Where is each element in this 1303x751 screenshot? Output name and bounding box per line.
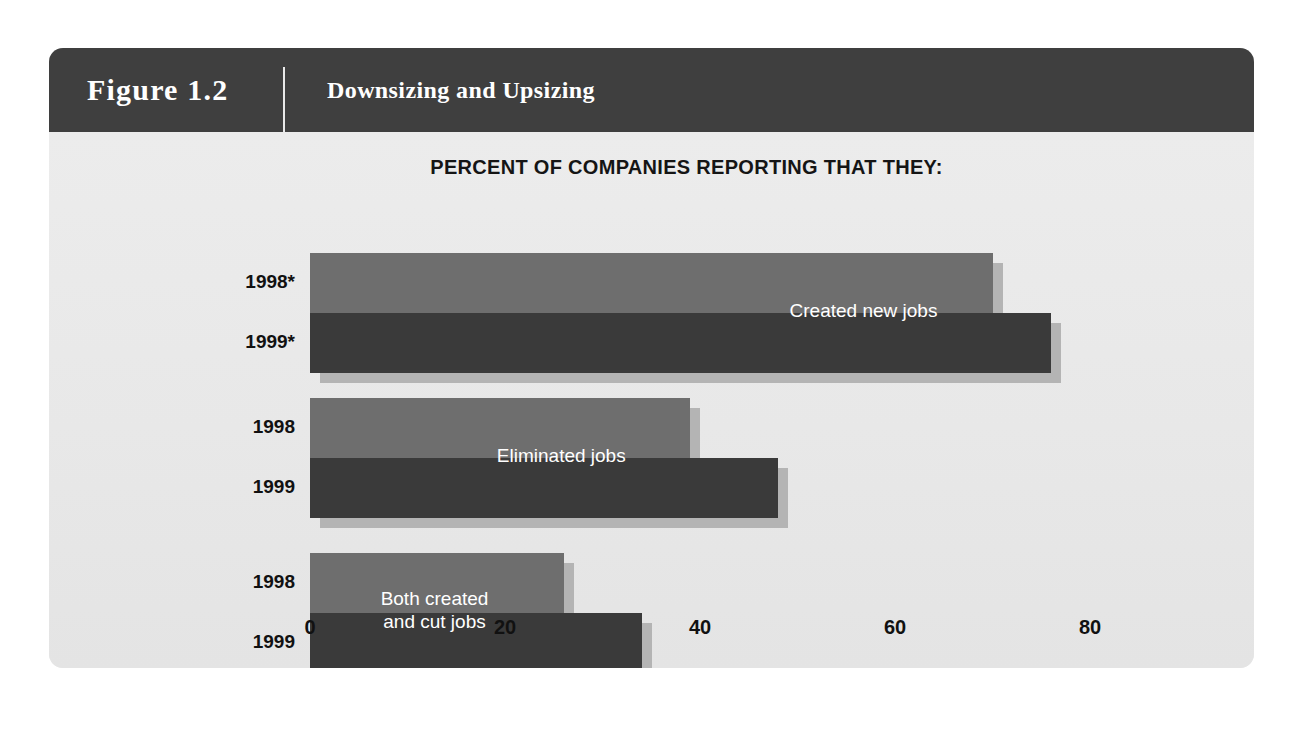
figure-panel: Figure 1.2 Downsizing and Upsizing PERCE… <box>49 48 1254 668</box>
bar-group-label: Created new jobs <box>749 299 979 322</box>
category-label: 1998 <box>140 416 295 438</box>
category-label: 1999 <box>140 631 295 653</box>
x-tick-label: 20 <box>494 616 516 639</box>
category-label: 1999 <box>140 476 295 498</box>
x-tick-label: 40 <box>689 616 711 639</box>
figure-number-label: Figure 1.2 <box>87 73 228 107</box>
category-label: 1998 <box>140 571 295 593</box>
figure-header-bar: Figure 1.2 Downsizing and Upsizing <box>49 48 1254 132</box>
chart-body: PERCENT OF COMPANIES REPORTING THAT THEY… <box>49 132 1254 668</box>
header-divider <box>283 67 285 132</box>
category-label: 1998* <box>140 271 295 293</box>
x-tick-label: 0 <box>304 616 315 639</box>
plot-area: 1998*1999*Created new jobs19981999Elimin… <box>49 132 1254 668</box>
figure-title-label: Downsizing and Upsizing <box>327 77 595 104</box>
x-tick-label: 60 <box>884 616 906 639</box>
x-tick-label: 80 <box>1079 616 1101 639</box>
category-label: 1999* <box>140 331 295 353</box>
bar-group-label: Eliminated jobs <box>446 444 676 467</box>
